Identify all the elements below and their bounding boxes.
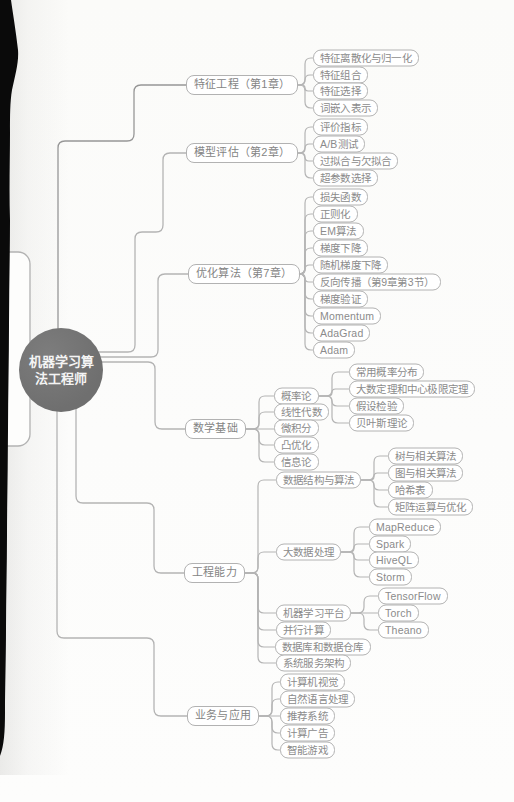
connector-ec2-ec2d — [341, 552, 369, 577]
connector-root-fe — [58, 85, 186, 334]
connector-oa-oa9 — [299, 274, 313, 333]
mindmap-canvas: 特征工程（第1章）特征离散化与归一化特征组合特征选择词嵌入表示模型评估（第2章）… — [0, 0, 514, 802]
mindmap-node-mb1: 概率论 — [274, 388, 319, 405]
mindmap-node-ec2d: Storm — [369, 569, 412, 586]
mindmap-node-ba5: 智能游戏 — [280, 742, 335, 759]
mindmap-node-mb1d: 贝叶斯理论 — [349, 415, 414, 432]
mindmap-node-ec3a: TensorFlow — [378, 588, 448, 605]
connector-ba-ba2 — [259, 699, 280, 716]
mindmap-node-mb1a: 常用概率分布 — [349, 364, 424, 381]
central-topic: 机器学习算法工程师 — [19, 328, 103, 412]
mindmap-node-ec4: 并行计算 — [276, 622, 331, 639]
connector-oa-oa6 — [300, 274, 313, 282]
connector-mb-mb2 — [246, 412, 274, 429]
connector-oa-oa4 — [299, 248, 313, 274]
mindmap-node-oa1: 损失函数 — [313, 189, 368, 206]
mindmap-node-oa3: EM算法 — [313, 223, 364, 240]
mindmap-node-oa6: 反向传播（第9章第3节） — [313, 274, 441, 291]
mindmap-node-ba3: 推荐系统 — [280, 708, 335, 725]
mindmap-node-mb3: 微积分 — [274, 420, 319, 437]
mindmap-node-ba1: 计算机视觉 — [280, 674, 345, 691]
mindmap-node-mb4: 凸优化 — [274, 437, 319, 454]
mindmap-node-ec: 工程能力 — [184, 563, 245, 583]
connector-ec2-ec2b — [341, 544, 369, 552]
connector-ba-ba4 — [259, 716, 280, 733]
connector-oa-oa3 — [299, 231, 313, 274]
connector-ec-ec6 — [245, 573, 276, 663]
connector-oa-oa1 — [299, 197, 313, 274]
mindmap-node-fe1: 特征离散化与归一化 — [313, 50, 419, 67]
mindmap-node-fe2: 特征组合 — [313, 67, 368, 84]
mindmap-node-ba2: 自然语言处理 — [280, 691, 355, 708]
mindmap-node-mb2: 线性代数 — [274, 404, 329, 421]
connector-mb1-mb1b — [319, 389, 349, 396]
connector-ec2-ec2c — [341, 552, 369, 560]
connector-me-me2 — [298, 144, 313, 153]
mindmap-node-ec2: 大数据处理 — [276, 544, 341, 561]
mindmap-node-oa8: Momentum — [313, 308, 381, 325]
connector-ec-ec3 — [245, 573, 276, 613]
mindmap-node-ec3b: Torch — [378, 605, 419, 622]
mindmap-node-oa: 优化算法（第7章） — [188, 264, 300, 284]
connector-root-me — [78, 153, 186, 352]
connector-mb-mb4 — [246, 429, 274, 445]
mindmap-node-oa2: 正则化 — [313, 206, 358, 223]
mindmap-node-fe4: 词嵌入表示 — [313, 100, 378, 117]
mindmap-node-mb5: 信息论 — [274, 454, 319, 471]
connector-ec3-ec3a — [351, 596, 378, 613]
mindmap-node-ec1b: 图与相关算法 — [388, 465, 463, 482]
mindmap-node-ec1: 数据结构与算法 — [276, 472, 361, 489]
mindmap-node-oa7: 梯度验证 — [313, 291, 368, 308]
connector-oa-oa5 — [300, 265, 313, 274]
mindmap-node-ec3c: Theano — [378, 622, 429, 639]
mindmap-node-ec3: 机器学习平台 — [276, 605, 351, 622]
mindmap-node-ec1a: 树与相关算法 — [388, 448, 463, 465]
mindmap-node-ec1d: 矩阵运算与优化 — [388, 499, 473, 516]
mindmap-node-me2: A/B测试 — [313, 136, 365, 153]
connector-oa-oa10 — [299, 274, 313, 350]
mindmap-node-mb1b: 大数定理和中心极限定理 — [349, 381, 475, 398]
mindmap-node-ba4: 计算广告 — [280, 725, 335, 742]
mindmap-node-mb: 数学基础 — [185, 419, 246, 439]
mindmap-node-fe: 特征工程（第1章） — [186, 75, 298, 95]
connector-ec-ec2 — [245, 552, 276, 573]
connector-mb1-mb1a — [319, 372, 349, 396]
connector-ec-ec5 — [245, 573, 275, 647]
mindmap-node-ec2c: HiveQL — [369, 552, 419, 569]
connector-ec-ec1 — [245, 480, 276, 573]
connector-ec2-ec2a — [341, 527, 369, 552]
mindmap-node-me1: 评价指标 — [313, 119, 368, 136]
mindmap-node-oa9: AdaGrad — [313, 325, 370, 342]
mindmap-node-ec2a: MapReduce — [369, 519, 441, 536]
mindmap-node-ec1c: 哈希表 — [388, 482, 433, 499]
mindmap-node-ec5: 数据库和数据仓库 — [275, 639, 371, 656]
connector-fe-fe2 — [298, 75, 313, 85]
mindmap-node-fe3: 特征选择 — [313, 83, 368, 100]
central-topic-label: 机器学习算法工程师 — [27, 353, 95, 387]
mindmap-node-ba: 业务与应用 — [187, 706, 259, 726]
connector-oa-oa7 — [299, 274, 313, 299]
connector-ec1-ec1b — [361, 473, 388, 480]
mindmap-node-oa5: 随机梯度下降 — [313, 257, 388, 274]
mindmap-node-mb1c: 假设检验 — [349, 398, 404, 415]
mindmap-node-me3: 过拟合与欠拟合 — [313, 153, 398, 170]
mindmap-node-me4: 超参数选择 — [313, 170, 378, 187]
connector-ec-ec4 — [245, 573, 276, 630]
mindmap-node-oa10: Adam — [313, 342, 355, 359]
connector-ec3-ec3c — [351, 613, 378, 630]
mindmap-node-ec6: 系统服务架构 — [276, 655, 351, 672]
mindmap-node-me: 模型评估（第2章） — [186, 143, 298, 163]
mindmap-node-ec2b: Spark — [369, 536, 411, 553]
mindmap-node-oa4: 梯度下降 — [313, 240, 368, 257]
